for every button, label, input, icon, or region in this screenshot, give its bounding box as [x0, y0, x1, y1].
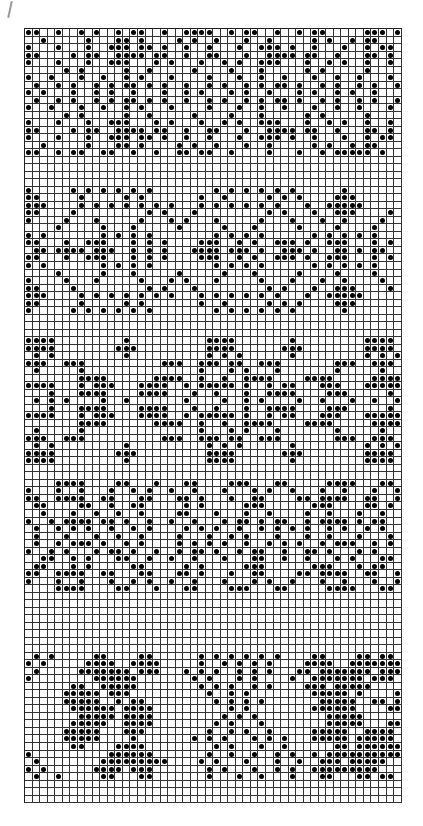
stitch-filled [364, 758, 372, 766]
stitch-empty [394, 285, 402, 293]
stitch-empty [176, 217, 184, 225]
stitch-empty [70, 766, 78, 774]
stitch-empty [55, 104, 63, 112]
stitch-empty [183, 239, 191, 247]
stitch-empty [206, 487, 214, 495]
stitch-empty [258, 788, 266, 796]
stitch-empty [40, 285, 48, 293]
stitch-empty [236, 300, 244, 308]
stitch-empty [311, 322, 319, 330]
stitch-empty [115, 194, 123, 202]
stitch-empty [153, 187, 161, 195]
stitch-empty [251, 104, 259, 112]
stitch-filled [371, 660, 379, 668]
stitch-empty [78, 593, 86, 601]
stitch-empty [183, 698, 191, 706]
stitch-empty [251, 472, 259, 480]
stitch-empty [153, 247, 161, 255]
stitch-empty [40, 44, 48, 52]
stitch-empty [191, 420, 199, 428]
stitch-empty [281, 502, 289, 510]
stitch-empty [93, 683, 101, 691]
stitch-filled [108, 570, 116, 578]
stitch-filled [274, 119, 282, 127]
stitch-empty [130, 435, 138, 443]
stitch-empty [296, 134, 304, 142]
stitch-empty [236, 720, 244, 728]
stitch-empty [123, 570, 131, 578]
stitch-empty [251, 382, 259, 390]
stitch-filled [236, 104, 244, 112]
stitch-filled [387, 743, 395, 751]
stitch-filled [334, 104, 342, 112]
stitch-empty [176, 209, 184, 217]
stitch-filled [138, 127, 146, 135]
stitch-empty [78, 164, 86, 172]
stitch-empty [55, 360, 63, 368]
stitch-empty [183, 292, 191, 300]
stitch-empty [198, 397, 206, 405]
stitch-empty [138, 262, 146, 270]
stitch-empty [356, 367, 364, 375]
stitch-filled [115, 690, 123, 698]
stitch-empty [70, 533, 78, 541]
stitch-empty [379, 578, 387, 586]
stitch-empty [371, 615, 379, 623]
stitch-filled [296, 668, 304, 676]
stitch-empty [379, 548, 387, 556]
stitch-empty [191, 570, 199, 578]
stitch-empty [379, 593, 387, 601]
stitch-empty [63, 502, 71, 510]
stitch-empty [289, 292, 297, 300]
stitch-empty [161, 187, 169, 195]
stitch-empty [387, 623, 395, 631]
stitch-empty [281, 472, 289, 480]
stitch-empty [251, 112, 259, 120]
stitch-empty [274, 615, 282, 623]
stitch-filled [168, 292, 176, 300]
stitch-empty [130, 330, 138, 338]
stitch-empty [70, 134, 78, 142]
stitch-filled [296, 29, 304, 37]
stitch-empty [130, 615, 138, 623]
stitch-filled [123, 751, 131, 759]
stitch-empty [33, 262, 41, 270]
stitch-filled [228, 728, 236, 736]
stitch-empty [138, 608, 146, 616]
stitch-empty [70, 660, 78, 668]
stitch-empty [85, 457, 93, 465]
stitch-filled [274, 405, 282, 413]
stitch-filled [341, 713, 349, 721]
stitch-empty [266, 645, 274, 653]
stitch-empty [168, 382, 176, 390]
stitch-filled [387, 239, 395, 247]
stitch-empty [55, 630, 63, 638]
stitch-empty [281, 270, 289, 278]
stitch-empty [108, 420, 116, 428]
stitch-empty [130, 397, 138, 405]
stitch-empty [55, 533, 63, 541]
stitch-empty [168, 615, 176, 623]
stitch-empty [100, 179, 108, 187]
stitch-empty [349, 420, 357, 428]
stitch-empty [274, 247, 282, 255]
stitch-empty [281, 172, 289, 180]
stitch-empty [198, 209, 206, 217]
stitch-empty [296, 578, 304, 586]
stitch-empty [349, 518, 357, 526]
stitch-empty [311, 360, 319, 368]
stitch-empty [123, 593, 131, 601]
stitch-filled [364, 345, 372, 353]
stitch-filled [33, 127, 41, 135]
stitch-empty [100, 352, 108, 360]
stitch-empty [289, 593, 297, 601]
stitch-empty [387, 367, 395, 375]
stitch-empty [48, 307, 56, 315]
stitch-empty [123, 277, 131, 285]
stitch-empty [70, 412, 78, 420]
stitch-empty [356, 600, 364, 608]
stitch-empty [274, 713, 282, 721]
stitch-filled [341, 44, 349, 52]
stitch-empty [198, 781, 206, 789]
stitch-empty [78, 510, 86, 518]
